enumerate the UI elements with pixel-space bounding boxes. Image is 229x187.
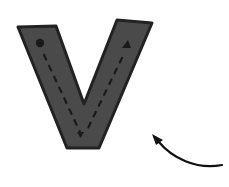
start-dot-icon xyxy=(36,39,44,47)
letter-v-diagram xyxy=(0,0,229,187)
curved-arrow xyxy=(158,141,222,166)
letter-v-shape xyxy=(18,20,152,148)
letter-v-svg xyxy=(0,0,229,187)
